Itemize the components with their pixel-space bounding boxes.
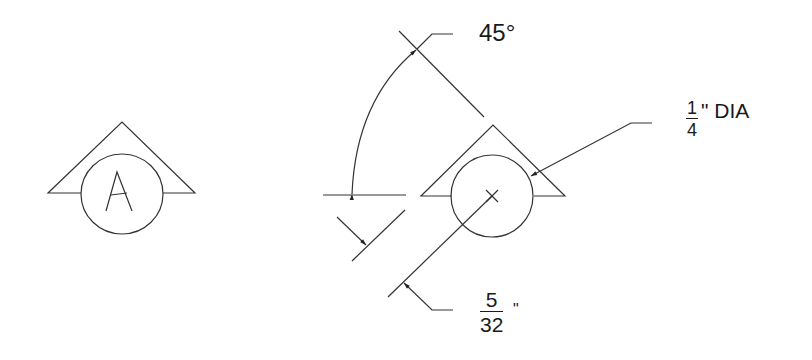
dimensioned-triangle [421,125,565,196]
drawing-canvas [0,0,812,360]
section-letter [106,172,132,211]
offset-short-arrow [337,217,366,245]
offset-suffix: " [513,302,519,318]
diameter-leader [531,123,652,176]
offset-numerator: 5 [480,289,503,312]
offset-extension [337,210,405,261]
angle-extension-line [399,31,484,117]
offset-leader [404,283,453,310]
dimensioned-section-symbol [421,125,565,237]
offset-denominator: 32 [480,312,503,335]
offset-dimension [388,196,492,310]
angle-arc [352,50,416,194]
offset-short-line [352,210,405,261]
offset-fraction: 5 32 [480,289,503,335]
example-section-symbol [48,122,195,234]
diameter-numerator: 1 [686,99,698,119]
diameter-suffix: " DIA [701,100,749,121]
diameter-dimension [531,123,652,176]
diameter-fraction: 1 4 [686,99,698,139]
angle-leader [417,34,453,49]
diameter-denominator: 4 [686,119,698,139]
angle-label: 45° [479,21,515,45]
